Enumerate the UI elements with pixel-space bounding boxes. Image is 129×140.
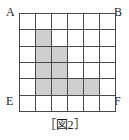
grid-cell-r5-c5	[84, 79, 100, 95]
grid-cell-r3-c1	[20, 46, 36, 62]
grid-cell-r2-c1	[20, 30, 36, 46]
grid-cell-r2-c3	[52, 30, 68, 46]
grid-cell-r5-c6	[100, 79, 116, 95]
grid-cell-r2-c4	[68, 30, 84, 46]
grid-row	[20, 95, 116, 111]
grid-cell-r3-c6	[100, 46, 116, 62]
grid-cell-r1-c4	[68, 14, 84, 30]
grid-cell-r4-c5	[84, 62, 100, 78]
grid-cell-r2-c2	[36, 30, 52, 46]
grid-row	[20, 14, 116, 30]
grid-cell-r4-c6	[100, 62, 116, 78]
grid-row	[20, 62, 116, 78]
grid-cell-r4-c1	[20, 62, 36, 78]
grid-cell-r6-c2	[36, 95, 52, 111]
grid-container	[19, 13, 109, 105]
grid-cell-r2-c5	[84, 30, 100, 46]
grid-cell-r5-c3	[52, 79, 68, 95]
grid-cell-r3-c5	[84, 46, 100, 62]
grid-body	[20, 14, 116, 112]
grid-cell-r1-c5	[84, 14, 100, 30]
grid-row	[20, 46, 116, 62]
grid-cell-r6-c6	[100, 95, 116, 111]
grid-cell-r1-c1	[20, 14, 36, 30]
grid-cell-r5-c1	[20, 79, 36, 95]
grid-cell-r2-c6	[100, 30, 116, 46]
grid-row	[20, 30, 116, 46]
grid-cell-r5-c2	[36, 79, 52, 95]
corner-label-top-left: A	[6, 6, 15, 18]
grid-cell-r6-c5	[84, 95, 100, 111]
grid-cell-r3-c4	[68, 46, 84, 62]
grid-cell-r5-c4	[68, 79, 84, 95]
grid-row	[20, 79, 116, 95]
grid-cell-r1-c3	[52, 14, 68, 30]
grid-cell-r4-c3	[52, 62, 68, 78]
grid-cell-r4-c2	[36, 62, 52, 78]
grid-cell-r1-c6	[100, 14, 116, 30]
figure-diagram: A B E F ［図2］	[0, 0, 129, 140]
grid-cell-r6-c3	[52, 95, 68, 111]
grid-cell-r6-c4	[68, 95, 84, 111]
corner-label-bottom-left: E	[6, 95, 13, 107]
cell-grid	[19, 13, 116, 112]
grid-cell-r1-c2	[36, 14, 52, 30]
figure-caption: ［図2］	[0, 118, 129, 132]
grid-cell-r6-c1	[20, 95, 36, 111]
grid-cell-r3-c3	[52, 46, 68, 62]
grid-cell-r3-c2	[36, 46, 52, 62]
grid-cell-r4-c4	[68, 62, 84, 78]
